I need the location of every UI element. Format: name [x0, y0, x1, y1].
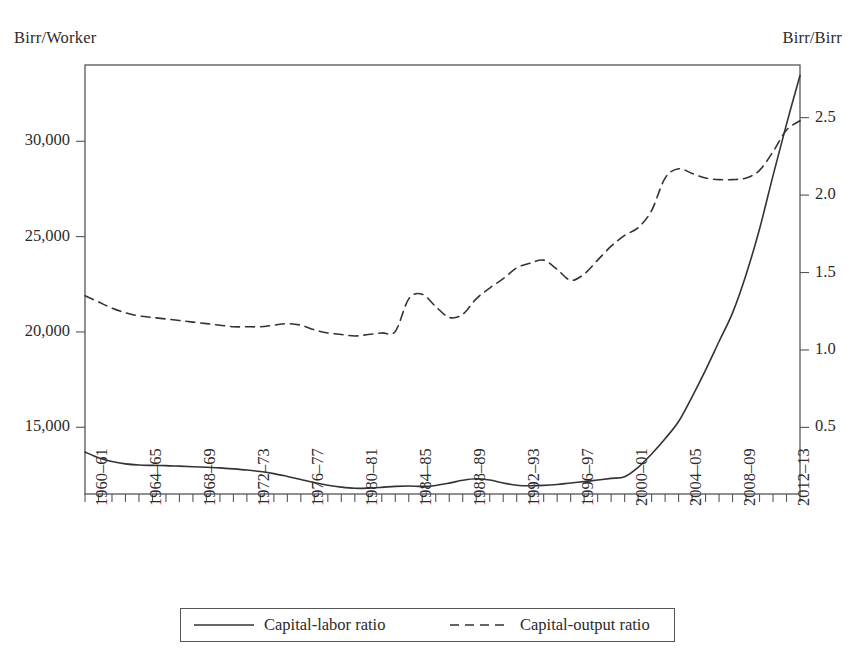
y-tick-label-right: 2.0 [815, 184, 836, 204]
x-tick-label: 2004–05 [686, 448, 706, 506]
x-tick-label: 1996–97 [578, 448, 598, 506]
x-tick-label: 2000–01 [632, 448, 652, 506]
y-tick-label-right: 1.5 [815, 262, 836, 282]
x-tick-label: 1992–93 [524, 448, 544, 506]
x-tick-label: 1960–61 [92, 448, 112, 506]
y-tick-label-right: 0.5 [815, 416, 836, 436]
plot-frame [85, 65, 800, 494]
legend-item[interactable]: Capital-output ratio [449, 609, 650, 641]
y-tick-label-right: 2.5 [815, 107, 836, 127]
series-line-dashed [85, 121, 800, 336]
legend-item-label: Capital-output ratio [520, 615, 650, 635]
x-tick-label: 2008–09 [740, 448, 760, 506]
y-tick-label-left: 25,000 [0, 226, 70, 246]
series-line-solid [85, 75, 800, 488]
y-tick-label-left: 30,000 [0, 130, 70, 150]
x-tick-label: 1984–85 [416, 448, 436, 506]
y-tick-label-right: 1.0 [815, 339, 836, 359]
x-tick-label: 1964–65 [146, 448, 166, 506]
x-tick-label: 2012–13 [794, 448, 814, 506]
legend-item-label: Capital-labor ratio [264, 615, 385, 635]
x-tick-label: 1976–77 [308, 448, 328, 506]
x-tick-label: 1972–73 [254, 448, 274, 506]
chart-legend: Capital-labor ratioCapital-output ratio [180, 608, 675, 642]
x-tick-label: 1980–81 [362, 448, 382, 506]
legend-dashed-line-icon [449, 620, 511, 630]
chart-figure: Birr/Worker Birr/Birr 15,00020,00025,000… [0, 0, 854, 659]
y-tick-label-left: 20,000 [0, 321, 70, 341]
x-tick-label: 1988–89 [470, 448, 490, 506]
plot-area [0, 0, 854, 659]
y-tick-label-left: 15,000 [0, 416, 70, 436]
legend-item[interactable]: Capital-labor ratio [193, 609, 385, 641]
legend-solid-line-icon [193, 620, 255, 630]
x-tick-label: 1968–69 [200, 448, 220, 506]
